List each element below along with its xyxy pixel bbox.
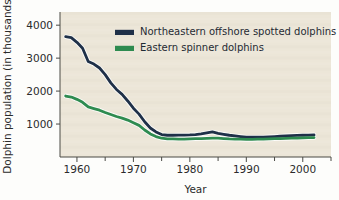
legend-label-spinner: Eastern spinner dolphins <box>140 42 264 53</box>
x-tick-label-2000: 2000 <box>289 163 316 175</box>
legend-swatch-spinner <box>115 46 134 51</box>
dolphin-population-chart: 100020003000400019601970198019902000Year… <box>0 0 339 200</box>
x-tick-label-1970: 1970 <box>120 163 147 175</box>
y-tick-label-2000: 2000 <box>26 85 53 97</box>
legend-swatch-spotted <box>115 30 134 35</box>
legend-label-spotted: Northeastern offshore spotted dolphins <box>140 26 336 37</box>
x-tick-label-1960: 1960 <box>64 163 91 175</box>
chart-canvas: 100020003000400019601970198019902000Year… <box>0 0 339 200</box>
y-tick-label-1000: 1000 <box>26 118 53 130</box>
x-tick-label-1990: 1990 <box>233 163 260 175</box>
x-tick-label-1980: 1980 <box>176 163 203 175</box>
y-tick-label-3000: 3000 <box>26 52 53 64</box>
y-axis-title: Dolphin population (in thousands) <box>1 0 13 174</box>
y-tick-label-4000: 4000 <box>26 19 53 31</box>
x-axis-title: Year <box>183 183 207 195</box>
